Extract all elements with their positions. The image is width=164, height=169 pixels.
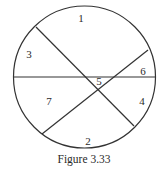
circle-partition-figure: 1234567 Figure 3.33 <box>0 0 164 169</box>
figure-caption: Figure 3.33 <box>57 153 110 166</box>
region-label-5: 5 <box>96 75 102 87</box>
region-label-3: 3 <box>26 48 32 60</box>
chords <box>14 27 156 134</box>
region-label-1: 1 <box>78 12 84 24</box>
ascending-chord <box>42 50 148 134</box>
region-label-7: 7 <box>46 95 52 107</box>
region-label-6: 6 <box>140 65 146 77</box>
region-labels: 1234567 <box>26 12 146 147</box>
region-label-2: 2 <box>85 135 91 147</box>
region-label-4: 4 <box>139 95 145 107</box>
